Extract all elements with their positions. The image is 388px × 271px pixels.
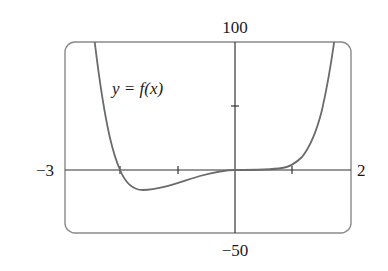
plot-frame xyxy=(65,42,351,233)
function-label: y = f(x) xyxy=(110,79,163,98)
function-plot: 100 −50 −3 2 y = f(x) xyxy=(0,0,388,271)
function-curve xyxy=(94,36,335,190)
x-min-label: −3 xyxy=(36,161,54,180)
x-max-label: 2 xyxy=(357,161,366,180)
y-max-label: 100 xyxy=(222,18,248,37)
y-min-label: −50 xyxy=(222,241,249,260)
